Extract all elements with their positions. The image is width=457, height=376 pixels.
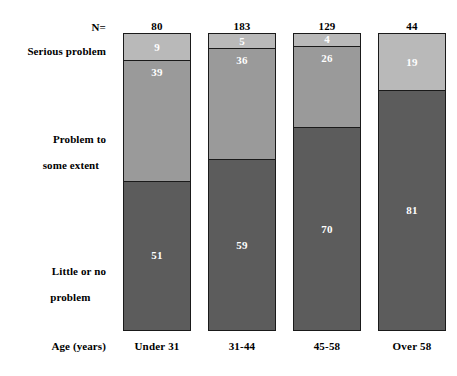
bar-segment-value: 39 xyxy=(151,67,162,78)
x-axis-tick-label: 31-44 xyxy=(200,340,284,352)
stacked-bar: 5 36 59 xyxy=(208,33,276,331)
bar-segment-value: 26 xyxy=(321,53,332,64)
bar-column-45-58: 129 4 26 70 45-58 xyxy=(285,0,369,376)
category-label-little-or-no-problem-line1: Little or no xyxy=(52,265,106,277)
bar-segment-problem-some-extent: 19 xyxy=(379,34,445,90)
bar-segment-problem-some-extent: 26 xyxy=(294,46,360,128)
stacked-bar-chart: N= Serious problem Problem to some exten… xyxy=(0,0,457,376)
sample-size-value: 183 xyxy=(200,20,284,32)
bar-segment-value: 51 xyxy=(151,250,162,261)
x-axis-tick-label: Over 58 xyxy=(370,340,454,352)
bar-segment-value: 70 xyxy=(321,224,332,235)
bar-segment-little-or-no-problem: 81 xyxy=(379,90,445,330)
category-label-little-or-no-problem-line2: problem xyxy=(35,291,106,304)
bar-segment-value: 59 xyxy=(236,240,247,251)
bar-segment-serious-problem: 5 xyxy=(209,34,275,48)
bar-column-over-58: 44 19 81 Over 58 xyxy=(370,0,454,376)
category-label-little-or-no-problem: Little or no problem xyxy=(35,252,106,330)
plot-area: 80 9 39 51 Under 31 183 5 xyxy=(112,0,457,376)
bar-segment-serious-problem: 9 xyxy=(124,34,190,60)
bar-segment-value: 4 xyxy=(324,34,330,45)
bar-segment-value: 19 xyxy=(406,57,417,68)
bar-segment-little-or-no-problem: 59 xyxy=(209,159,275,330)
bar-segment-value: 9 xyxy=(154,42,160,53)
bar-segment-value: 5 xyxy=(239,36,245,47)
bar-segment-serious-problem: 4 xyxy=(294,34,360,46)
bar-segment-little-or-no-problem: 51 xyxy=(124,181,190,330)
sample-size-value: 44 xyxy=(370,20,454,32)
bar-segment-value: 81 xyxy=(406,205,417,216)
bar-segment-little-or-no-problem: 70 xyxy=(294,127,360,330)
sample-size-row-label: N= xyxy=(92,21,106,34)
bar-column-31-44: 183 5 36 59 31-44 xyxy=(200,0,284,376)
bar-segment-problem-some-extent: 39 xyxy=(124,60,190,180)
x-axis-title: Age (years) xyxy=(51,340,106,353)
category-label-problem-some-extent: Problem to some extent xyxy=(36,120,106,198)
category-label-problem-some-extent-line2: some extent xyxy=(36,159,106,172)
bar-column-under-31: 80 9 39 51 Under 31 xyxy=(115,0,199,376)
sample-size-value: 129 xyxy=(285,20,369,32)
bar-segment-value: 36 xyxy=(236,55,247,66)
row-label-column: N= Serious problem Problem to some exten… xyxy=(0,0,112,376)
sample-size-value: 80 xyxy=(115,20,199,32)
x-axis-tick-label: 45-58 xyxy=(285,340,369,352)
x-axis-tick-label: Under 31 xyxy=(115,340,199,352)
stacked-bar: 4 26 70 xyxy=(293,33,361,331)
stacked-bar: 19 81 xyxy=(378,33,446,331)
category-label-problem-some-extent-line1: Problem to xyxy=(53,133,106,145)
stacked-bar: 9 39 51 xyxy=(123,33,191,331)
category-label-serious-problem: Serious problem xyxy=(27,45,106,58)
bar-segment-problem-some-extent: 36 xyxy=(209,48,275,159)
